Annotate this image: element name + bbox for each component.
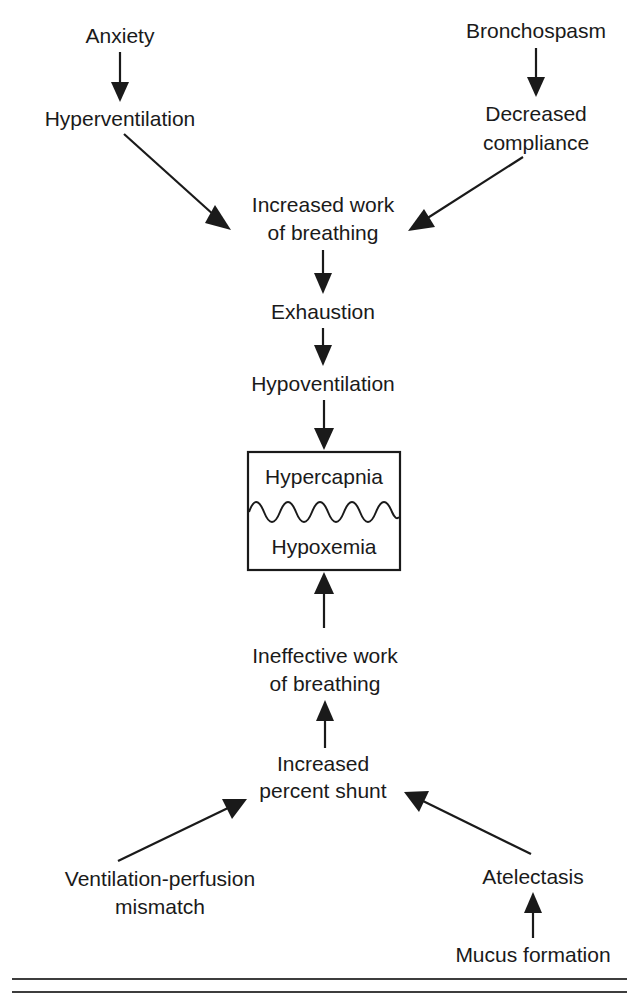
node-hyperventilation: Hyperventilation (45, 107, 196, 130)
edge-vq-mismatch-to-increased-shunt (118, 799, 247, 861)
node-hypercapnia: Hypercapnia (265, 465, 383, 488)
edge-exhaustion-to-hypoventilation (314, 328, 332, 366)
edge-increased-shunt-to-ineffective-work (316, 700, 334, 748)
node-mucus-formation: Mucus formation (455, 943, 610, 966)
flowchart-canvas: Anxiety Bronchospasm Hyperventilation De… (0, 0, 640, 1003)
node-increased-work-line2: of breathing (268, 221, 379, 244)
node-ineffective-work-line1: Ineffective work (252, 644, 398, 667)
edge-increased-work-to-exhaustion (314, 250, 332, 294)
node-decreased-compliance-line2: compliance (483, 131, 589, 154)
flowchart-diagram: Anxiety Bronchospasm Hyperventilation De… (0, 0, 640, 1003)
edge-atelectasis-to-increased-shunt (404, 791, 531, 854)
node-increased-shunt-line2: percent shunt (259, 779, 386, 802)
edge-hyperventilation-to-increased-work (124, 134, 231, 230)
node-hypoventilation: Hypoventilation (251, 372, 395, 395)
node-increased-shunt-line1: Increased (277, 752, 369, 775)
edge-hypoventilation-to-state-box (314, 400, 334, 450)
edge-bronchospasm-to-decreased-compliance (527, 48, 545, 97)
node-atelectasis: Atelectasis (482, 865, 584, 888)
node-hypoxemia: Hypoxemia (271, 535, 376, 558)
node-vq-mismatch-line1: Ventilation-perfusion (65, 867, 255, 890)
node-decreased-compliance-line1: Decreased (485, 102, 587, 125)
node-vq-mismatch-line2: mismatch (115, 895, 205, 918)
edge-ineffective-work-to-state-box (314, 572, 334, 628)
edge-decreased-compliance-to-increased-work (408, 157, 523, 231)
node-exhaustion: Exhaustion (271, 300, 375, 323)
node-ineffective-work-line2: of breathing (270, 672, 381, 695)
node-anxiety: Anxiety (86, 24, 155, 47)
wave-divider-icon (249, 502, 399, 522)
node-increased-work-line1: Increased work (252, 193, 395, 216)
node-bronchospasm: Bronchospasm (466, 19, 606, 42)
edge-anxiety-to-hyperventilation (111, 52, 129, 102)
edge-mucus-formation-to-atelectasis (524, 892, 542, 938)
